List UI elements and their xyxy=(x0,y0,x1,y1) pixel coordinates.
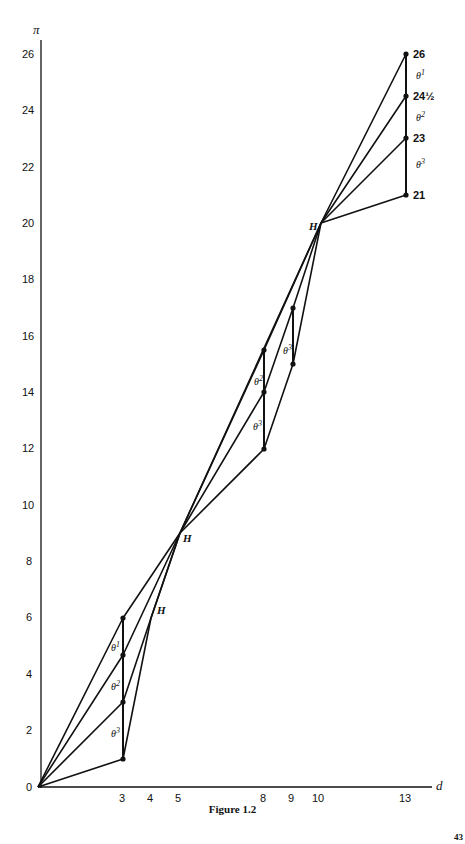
path-theta1-upper xyxy=(38,54,406,787)
theta-label: θ3 xyxy=(111,726,120,739)
point xyxy=(120,699,125,704)
y-tick-labels: 0 2 4 6 8 10 12 14 16 18 20 22 24 26 xyxy=(22,48,34,793)
y-tick: 18 xyxy=(22,273,34,285)
y-tick: 24 xyxy=(22,104,34,116)
theta-label: θ3 xyxy=(416,157,425,170)
y-tick: 22 xyxy=(22,161,34,173)
figure-caption: Figure 1.2 xyxy=(0,803,465,815)
right-label: 21 xyxy=(413,189,425,201)
series-lines xyxy=(38,54,406,787)
h-label: H xyxy=(182,532,192,544)
point xyxy=(403,51,408,56)
y-tick: 20 xyxy=(22,217,34,229)
x-axis-label: d xyxy=(436,778,443,793)
y-tick: 10 xyxy=(22,499,34,511)
right-label: 23 xyxy=(413,132,425,144)
y-tick: 2 xyxy=(26,724,32,736)
page-number: 43 xyxy=(454,832,463,842)
theta-label: θ2 xyxy=(416,110,425,123)
y-tick: 14 xyxy=(22,386,34,398)
theta-label: θ3 xyxy=(283,343,292,356)
point xyxy=(403,192,408,197)
y-tick: 6 xyxy=(26,611,32,623)
point xyxy=(120,756,125,761)
h-label: H xyxy=(156,604,166,616)
point xyxy=(403,135,408,140)
y-tick: 8 xyxy=(26,555,32,567)
point xyxy=(403,93,408,98)
point xyxy=(261,389,266,394)
y-axis-label: π xyxy=(33,22,40,37)
origin-label: 0 xyxy=(26,781,32,793)
theta-label: θ1 xyxy=(416,68,425,81)
theta-label: θ2 xyxy=(254,374,263,387)
point xyxy=(120,652,125,657)
right-label: 26 xyxy=(413,48,425,60)
h-label: H xyxy=(308,220,318,232)
theta-label: θ2 xyxy=(111,679,120,692)
theta-labels: θ1 θ2 θ3 θ1 θ2 θ3 θ2 θ3 θ3 xyxy=(111,68,425,739)
point xyxy=(290,305,295,310)
y-tick: 4 xyxy=(26,668,32,680)
point xyxy=(261,446,266,451)
y-tick: 12 xyxy=(22,442,34,454)
right-label: 24½ xyxy=(413,90,434,102)
figure-chart: π d 0 2 4 6 8 10 12 14 16 18 20 22 24 26… xyxy=(0,0,465,844)
point xyxy=(120,615,125,620)
theta-label: θ1 xyxy=(111,640,120,653)
y-tick: 16 xyxy=(22,330,34,342)
theta-label: θ3 xyxy=(253,419,262,432)
point xyxy=(261,347,266,352)
point xyxy=(290,361,295,366)
y-tick: 26 xyxy=(22,48,34,60)
